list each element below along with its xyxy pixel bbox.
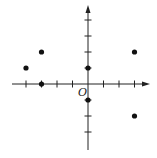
origin-label: O: [78, 86, 87, 99]
data-point: [85, 65, 90, 70]
data-point: [23, 65, 28, 70]
data-point: [39, 49, 44, 54]
y-axis-arrow-icon: [86, 5, 91, 13]
axis-ticks: [26, 20, 135, 132]
axes: [12, 5, 150, 150]
data-point: [39, 81, 44, 86]
x-axis-arrow-icon: [142, 82, 150, 87]
coordinate-plane: O: [0, 0, 157, 158]
data-point: [132, 49, 137, 54]
data-point: [132, 113, 137, 118]
